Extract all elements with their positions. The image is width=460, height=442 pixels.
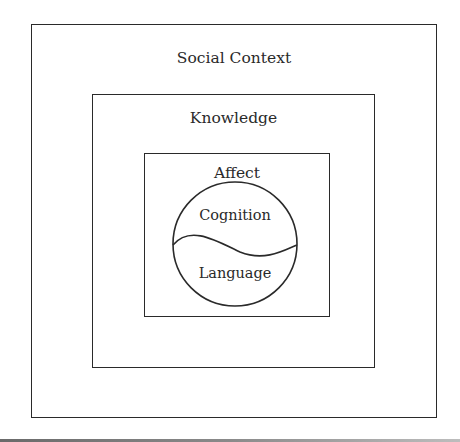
core-circle <box>173 182 297 306</box>
language-label: Language <box>140 265 330 281</box>
wavy-divider <box>173 235 297 256</box>
cognition-label: Cognition <box>140 207 330 223</box>
